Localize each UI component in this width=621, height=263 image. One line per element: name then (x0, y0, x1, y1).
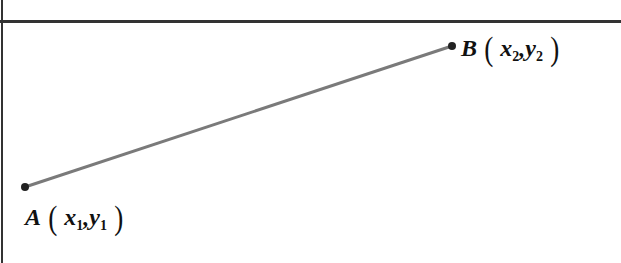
b-y-sub: 2 (536, 49, 543, 64)
b-x-label: x (500, 35, 512, 61)
paren-close: ) (550, 30, 559, 68)
a-y-label: y (89, 204, 100, 230)
paren-open: ( (484, 30, 493, 68)
a-x-label: x (64, 204, 76, 230)
label-point-a: A(x1,y1) (25, 199, 130, 237)
paren-open: ( (48, 199, 57, 237)
b-y-label: y (525, 35, 536, 61)
label-point-b: B(x2,y2) (461, 30, 566, 68)
a-y-sub: 1 (100, 218, 107, 233)
point-a (21, 183, 29, 191)
point-b-name: B (461, 35, 477, 61)
paren-close: ) (114, 199, 123, 237)
segment-ab (25, 46, 452, 187)
point-a-name: A (25, 204, 41, 230)
point-b (448, 42, 456, 50)
